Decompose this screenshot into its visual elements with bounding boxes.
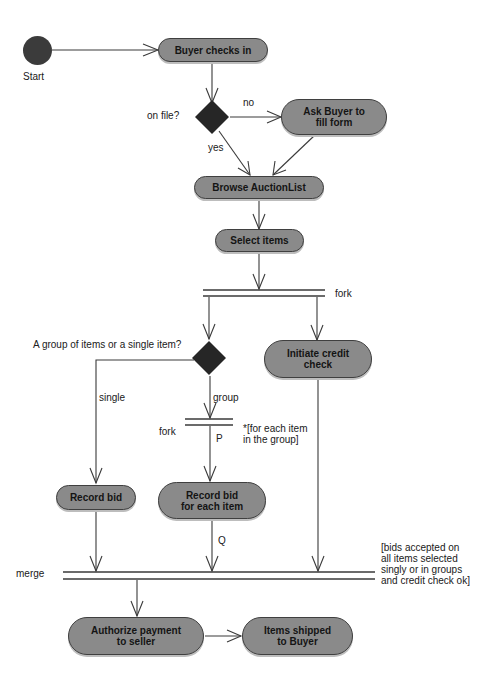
activity-record-bid-each-item[interactable]: Record bid for each item [158, 482, 266, 519]
activity-authorize-payment[interactable]: Authorize payment to seller [68, 617, 204, 655]
activity-record-bid[interactable]: Record bid [56, 485, 136, 510]
fork-label: fork [335, 288, 352, 299]
label-p: P [216, 433, 223, 444]
inner-fork-note: *[for each item in the group] [243, 423, 307, 445]
inner-fork-label: fork [159, 426, 176, 437]
start-label: Start [23, 71, 44, 82]
activity-buyer-checks-in[interactable]: Buyer checks in [158, 38, 268, 62]
label-q: Q [218, 535, 226, 546]
activity-ask-buyer[interactable]: Ask Buyer to fill form [281, 99, 387, 135]
merge-note: [bids accepted on all items selected sin… [381, 542, 470, 586]
decision-on-file-label: on file? [147, 110, 179, 121]
guard-group: group [213, 392, 239, 403]
activity-select-items[interactable]: Select items [215, 229, 304, 252]
activity-initiate-credit-check[interactable]: Initiate credit check [264, 340, 372, 378]
guard-single: single [99, 392, 125, 403]
merge-label: merge [16, 568, 44, 579]
guard-no: no [243, 97, 254, 108]
guard-yes: yes [208, 142, 224, 153]
activity-items-shipped[interactable]: Items shipped to Buyer [242, 617, 353, 655]
decision-group-or-single-label: A group of items or a single item? [33, 339, 181, 350]
start-node [23, 36, 52, 65]
activity-browse-auctionlist[interactable]: Browse AuctionList [194, 176, 324, 199]
